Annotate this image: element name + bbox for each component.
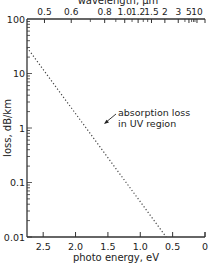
x-tick-label: 2.5 xyxy=(36,241,51,252)
y-tick-label: 0.01 xyxy=(4,232,25,243)
y-axis-title: loss, dB/km xyxy=(2,99,13,157)
uv-absorption-chart: 1001010.10.012.52.01.51.00.500.50.60.81.… xyxy=(0,0,210,267)
y-tick-label: 10 xyxy=(13,68,25,79)
x2-tick-label: 2 xyxy=(162,7,168,17)
x2-tick-label: 1.5 xyxy=(144,7,158,17)
y-tick-label: 1 xyxy=(19,123,25,134)
x-tick-label: 0 xyxy=(202,241,208,252)
x2-tick-label: 0.5 xyxy=(37,7,51,17)
y-tick-label: 0.1 xyxy=(10,177,25,188)
absorption-loss-line xyxy=(27,47,166,237)
x2-axis-title: wavelength, μm xyxy=(78,0,159,6)
x-tick-label: 2.0 xyxy=(68,241,83,252)
x-tick-label: 0.5 xyxy=(165,241,180,252)
x2-tick-label: 0.6 xyxy=(64,7,79,17)
x2-tick-label: 0.8 xyxy=(98,7,113,17)
annotation-line-2: in UV region xyxy=(118,118,176,129)
y-tick-label: 100 xyxy=(7,14,25,25)
x2-tick-label: 1.2 xyxy=(131,7,145,17)
x-tick-label: 1.5 xyxy=(100,241,115,252)
x2-tick-label: 3 xyxy=(175,7,181,17)
x-axis-title: photo energy, eV xyxy=(73,252,159,263)
annotation-line-1: absorption loss xyxy=(118,107,190,118)
x-tick-label: 1.0 xyxy=(133,241,148,252)
x2-tick-label: 10 xyxy=(191,7,203,17)
